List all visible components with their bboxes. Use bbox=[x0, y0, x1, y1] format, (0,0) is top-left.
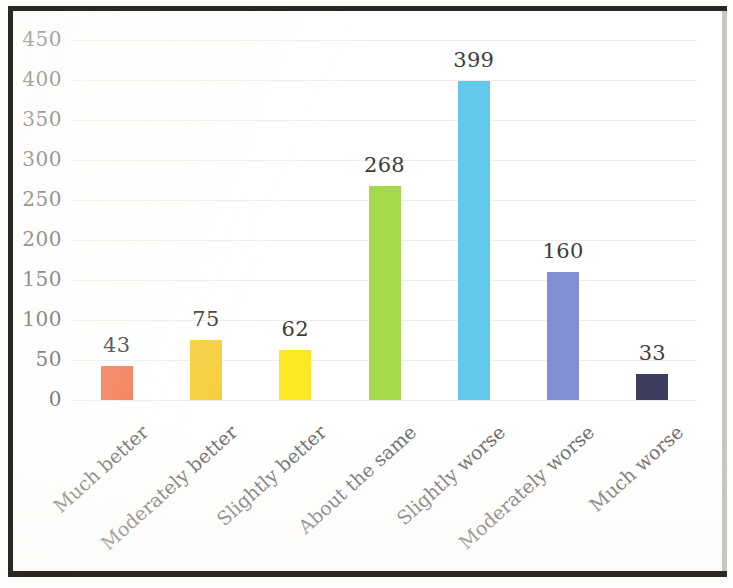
y-gridline bbox=[72, 400, 697, 401]
y-axis-tick-label: 0 bbox=[0, 389, 62, 409]
bar[interactable] bbox=[101, 366, 133, 400]
y-axis-tick-label: 100 bbox=[0, 309, 62, 329]
y-gridline bbox=[72, 120, 697, 121]
bar-chart-plot-area: 05010015020025030035040045043Much better… bbox=[0, 0, 733, 588]
chart-page: 05010015020025030035040045043Much better… bbox=[0, 0, 733, 588]
bar[interactable] bbox=[458, 81, 490, 400]
bar[interactable] bbox=[636, 374, 668, 400]
bar-value-label: 399 bbox=[424, 50, 524, 71]
bar-value-label: 33 bbox=[602, 343, 702, 364]
bar-value-label: 268 bbox=[335, 155, 435, 176]
y-axis-tick-label: 250 bbox=[0, 189, 62, 209]
bar[interactable] bbox=[190, 340, 222, 400]
bar[interactable] bbox=[547, 272, 579, 400]
y-axis-tick-label: 200 bbox=[0, 229, 62, 249]
y-gridline bbox=[72, 80, 697, 81]
y-gridline bbox=[72, 40, 697, 41]
bar-value-label: 43 bbox=[67, 335, 167, 356]
y-axis-tick-label: 50 bbox=[0, 349, 62, 369]
bar[interactable] bbox=[279, 350, 311, 400]
y-axis-tick-label: 400 bbox=[0, 69, 62, 89]
y-axis-tick-label: 150 bbox=[0, 269, 62, 289]
bar-value-label: 75 bbox=[156, 309, 256, 330]
bar-value-label: 160 bbox=[513, 241, 613, 262]
y-axis-tick-label: 450 bbox=[0, 29, 62, 49]
bar-value-label: 62 bbox=[245, 319, 345, 340]
y-axis-tick-label: 350 bbox=[0, 109, 62, 129]
y-axis-tick-label: 300 bbox=[0, 149, 62, 169]
bar[interactable] bbox=[369, 186, 401, 400]
